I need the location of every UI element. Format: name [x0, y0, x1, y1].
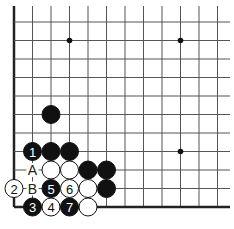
letter-mark-b: B	[28, 181, 37, 197]
black-stone-3: 3	[24, 198, 42, 216]
go-board: AB 1256347	[0, 0, 234, 229]
move-number: 4	[47, 200, 54, 215]
move-number: 1	[29, 145, 36, 160]
black-stone	[42, 106, 60, 124]
move-number: 5	[47, 182, 54, 197]
move-number: 3	[29, 200, 36, 215]
letter-mark-a: A	[28, 162, 38, 178]
black-stone-5: 5	[42, 180, 60, 198]
white-stone	[79, 180, 97, 198]
white-stone-6: 6	[61, 180, 79, 198]
move-number: 2	[10, 182, 17, 197]
black-stone	[98, 180, 116, 198]
white-stone	[42, 161, 60, 179]
white-stone-4: 4	[42, 198, 60, 216]
black-stone	[79, 161, 97, 179]
white-stone	[79, 198, 97, 216]
star-point	[67, 38, 73, 44]
white-stone	[61, 161, 79, 179]
black-stone	[61, 143, 79, 161]
black-stone	[42, 143, 60, 161]
star-point	[178, 149, 184, 155]
black-stone	[98, 161, 116, 179]
black-stone-1: 1	[24, 143, 42, 161]
stones: 1256347	[5, 106, 116, 217]
star-point	[178, 38, 184, 44]
white-stone-2: 2	[5, 180, 23, 198]
black-stone-7: 7	[61, 198, 79, 216]
move-number: 6	[66, 182, 73, 197]
move-number: 7	[66, 200, 73, 215]
